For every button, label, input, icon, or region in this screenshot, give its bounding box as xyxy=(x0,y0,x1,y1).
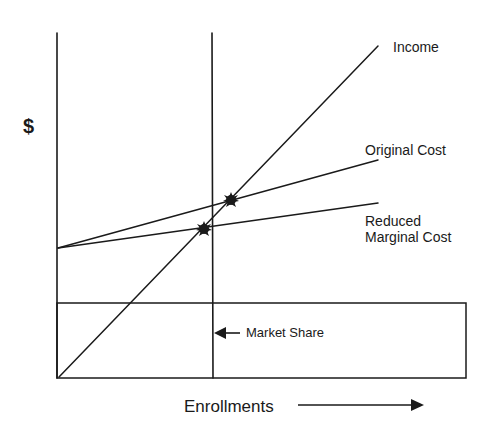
market-share-arrow-icon xyxy=(214,327,240,339)
original-cost-line xyxy=(58,160,378,248)
y-axis-label: $ xyxy=(23,115,34,138)
reduced-marginal-cost-label-line1: Reduced xyxy=(365,213,451,229)
original-cost-label: Original Cost xyxy=(365,142,446,158)
market-share-label: Market Share xyxy=(246,326,324,341)
reduced-marginal-cost-label: Reduced Marginal Cost xyxy=(365,213,451,245)
x-axis-label: Enrollments xyxy=(184,397,274,417)
enrollments-arrow-icon xyxy=(298,399,424,411)
reduced-marginal-cost-label-line2: Marginal Cost xyxy=(365,229,451,245)
income-line xyxy=(59,46,378,377)
income-label: Income xyxy=(393,39,439,55)
reduced-marginal-cost-line xyxy=(58,203,378,248)
break-even-markers xyxy=(196,192,239,236)
